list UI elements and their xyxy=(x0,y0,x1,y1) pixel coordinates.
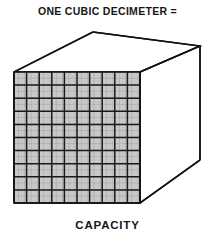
figure-root: ONE CUBIC DECIMETER = xyxy=(0,0,215,241)
cube-diagram xyxy=(0,0,215,241)
cube-right-face xyxy=(140,46,200,203)
bottom-caption: CAPACITY xyxy=(0,219,215,231)
